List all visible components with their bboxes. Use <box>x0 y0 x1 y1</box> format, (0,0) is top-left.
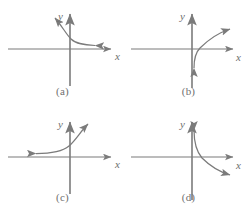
x-axis-label: x <box>114 158 120 170</box>
x-axis-label: x <box>235 51 241 63</box>
y-axis-label: y <box>179 10 185 22</box>
curve-path <box>194 130 230 175</box>
y-axis-label: y <box>57 10 63 22</box>
x-axis-label: x <box>114 50 120 62</box>
panel-caption-c: (c) <box>0 191 125 203</box>
panel-caption-d: (d) <box>126 191 251 203</box>
panel-caption-a: (a) <box>0 85 125 97</box>
curve-path <box>55 18 95 46</box>
y-axis-label: y <box>179 118 185 130</box>
panel-caption-b: (b) <box>126 85 251 97</box>
x-axis-label: x <box>235 159 241 171</box>
y-axis-label: y <box>57 118 63 130</box>
figure-root: x y (a) x y (b) <box>0 0 251 217</box>
